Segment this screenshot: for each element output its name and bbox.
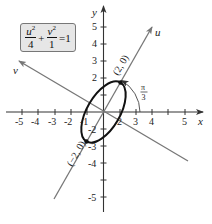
x-tick-label: 3 xyxy=(133,116,138,127)
y-tick-label: 5 xyxy=(92,21,97,32)
u-axis-label: u xyxy=(155,26,161,38)
x-tick-label: 4 xyxy=(149,116,154,127)
x-axis-label: x xyxy=(197,115,203,127)
v-fraction: v2 1 xyxy=(47,25,57,51)
vertex-label-positive: (2, 0) xyxy=(110,53,131,78)
x-tick-label: 2 xyxy=(117,116,122,127)
x-tick-label: -3 xyxy=(48,116,56,127)
rotation-angle-label: π 3 xyxy=(141,83,148,102)
y-axis-label: y xyxy=(91,6,97,18)
y-tick-label: -4 xyxy=(88,158,96,169)
x-tick-label: -2 xyxy=(64,116,72,127)
equation-box: u2 4 + v2 1 =1 xyxy=(20,23,76,52)
x-tick-label: -5 xyxy=(15,116,23,127)
y-tick-label: -2 xyxy=(88,124,96,135)
u-fraction: u2 4 xyxy=(25,25,36,51)
vertex-label-negative: (−2, 0) xyxy=(64,139,88,169)
svg-text:π: π xyxy=(141,83,145,92)
y-tick-label: -5 xyxy=(88,192,96,203)
x-tick-label: 5 xyxy=(182,116,187,127)
y-tick-label: 4 xyxy=(92,38,97,49)
rotated-ellipse-diagram: -5 -4 -3 -2 -1 2 3 4 5 5 4 3 2 -2 -3 -4 … xyxy=(0,0,212,224)
svg-text:3: 3 xyxy=(142,93,146,102)
v-axis-label: v xyxy=(13,64,18,76)
y-tick-label: 3 xyxy=(92,55,97,66)
y-tick-label: -3 xyxy=(88,141,96,152)
plus-sign: + xyxy=(38,32,44,44)
equals-one: =1 xyxy=(59,32,71,44)
x-tick-label: -4 xyxy=(31,116,39,127)
y-tick-label: 2 xyxy=(92,72,97,83)
